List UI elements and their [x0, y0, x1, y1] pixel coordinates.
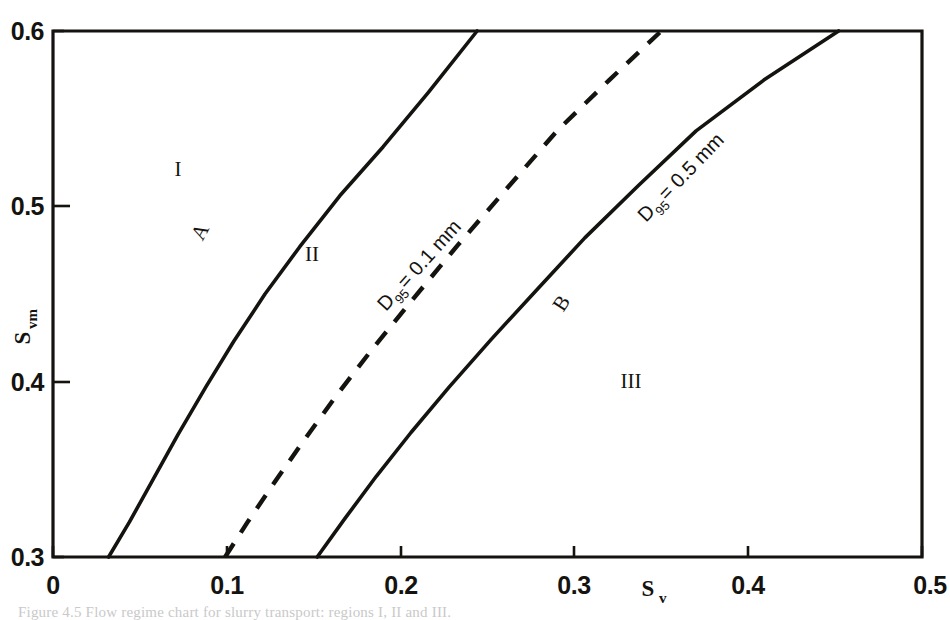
- y-axis-title-subscript: vm: [24, 309, 40, 330]
- y-tick-label-0: 0.3: [11, 543, 44, 571]
- x-tick-label-4: 0.4: [731, 571, 765, 599]
- y-tick-label-1: 0.4: [11, 368, 45, 396]
- y-tick-label-3: 0.6: [11, 17, 44, 45]
- y-tick-label-2: 0.5: [11, 192, 45, 220]
- chart-canvas: 0 0.1 0.2 0.3 0.4 0.5 0.3 0.4 0.5 0.6 S …: [0, 0, 950, 620]
- curve-letter-b-group: B: [547, 291, 575, 316]
- region-label-iii: III: [621, 369, 642, 393]
- axes-frame: [53, 31, 922, 557]
- x-tick-label-2: 0.2: [384, 571, 417, 599]
- x-axis-title-base: S: [642, 576, 655, 601]
- x-axis-ticks: [53, 546, 922, 557]
- region-label-i: I: [175, 157, 182, 181]
- annotation-d95-0-1mm-rest: = 0.1 mm: [393, 215, 466, 292]
- x-tick-label-1: 0.1: [210, 571, 244, 599]
- curve-d95-0-1mm: [225, 31, 661, 557]
- x-axis-title: S v: [642, 576, 667, 606]
- y-axis-title: S vm: [10, 309, 40, 345]
- annotation-d95-0-5mm-rest: = 0.5 mm: [654, 129, 728, 205]
- x-tick-label-0: 0: [46, 571, 59, 599]
- figure-container: 0 0.1 0.2 0.3 0.4 0.5 0.3 0.4 0.5 0.6 S …: [0, 0, 950, 620]
- x-tick-labels: 0 0.1 0.2 0.3 0.4 0.5: [46, 571, 947, 599]
- x-tick-label-3: 0.3: [557, 571, 590, 599]
- curve-letter-b: B: [547, 291, 575, 316]
- y-tick-labels: 0.3 0.4 0.5 0.6: [11, 17, 45, 571]
- curve-letter-a: A: [186, 219, 215, 244]
- y-axis-title-base: S: [10, 332, 35, 345]
- y-axis-ticks: [53, 31, 70, 557]
- curve-a-boundary: [109, 31, 478, 557]
- x-tick-label-5: 0.5: [913, 571, 947, 599]
- curve-letter-a-group: A: [186, 219, 215, 244]
- region-label-ii: II: [305, 242, 319, 266]
- plot-border: [53, 31, 922, 557]
- annotation-d95-0-1mm-group: D 95 = 0.1 mm: [373, 215, 469, 318]
- figure-caption-fragment: Figure 4.5 Flow regime chart for slurry …: [18, 604, 933, 620]
